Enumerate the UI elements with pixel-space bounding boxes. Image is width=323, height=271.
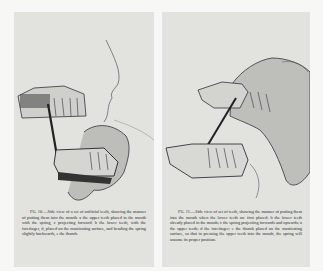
figure-label: Fig. 11. <box>178 209 191 214</box>
figure-caption: Fig. 11.—Side view of set of teeth, show… <box>170 209 302 243</box>
illustration-artificial-teeth-insertion-fig11 <box>162 12 310 207</box>
figure-caption-text: —Side view of set of teeth, showing the … <box>170 209 302 242</box>
illustration-artificial-teeth-insertion-fig10 <box>14 12 154 207</box>
page-figure-10: Fig. 10.—Side view of a set of artificia… <box>14 12 154 267</box>
figure-caption: Fig. 10.—Side view of a set of artificia… <box>22 209 146 237</box>
figure-label: Fig. 10. <box>30 209 43 214</box>
page-figure-11: Fig. 11.—Side view of set of teeth, show… <box>162 12 310 267</box>
